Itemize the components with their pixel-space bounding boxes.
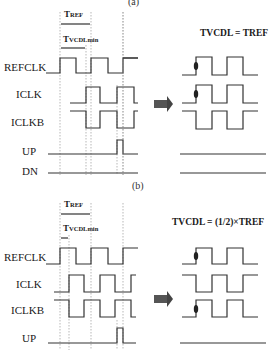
panel-a-guides (22, 12, 123, 175)
panel-a-iclkb-wave (70, 111, 138, 128)
panel-a-up-wave (48, 140, 138, 154)
timing-diagram (0, 0, 272, 350)
panel-a-result-refclk (182, 57, 258, 75)
panel-a-iclk-wave (70, 87, 138, 103)
panel-a-transform-arrow-icon (154, 96, 173, 112)
panel-b-transform-arrow-icon (154, 291, 173, 307)
panel-a-result-iclk (182, 85, 258, 103)
panel-b-result-iclkb (182, 300, 258, 317)
panel-b-result-iclk (182, 275, 258, 292)
panel-b-refclk-wave (46, 248, 138, 264)
panel-b-iclkb-wave (54, 300, 136, 317)
panel-b-up-wave (48, 328, 136, 343)
panel-a-result-iclkb (182, 111, 258, 129)
panel-a-refclk-wave (46, 58, 138, 73)
panel-b-iclk-wave (54, 275, 136, 292)
panel-b-result-refclk (182, 248, 258, 264)
